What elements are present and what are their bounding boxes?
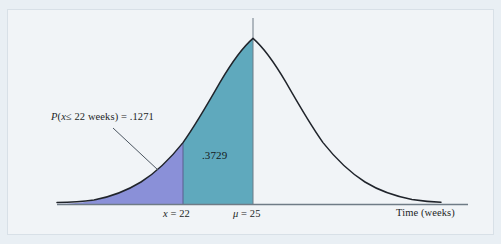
figure-container: P(x≤ 22 weeks) = .1271 .3729 x = 22 μ = … <box>0 0 501 244</box>
tick-mu-value: = 25 <box>238 208 260 219</box>
annotation-leader-line <box>113 128 158 170</box>
middle-region-probability-label: .3729 <box>202 149 227 161</box>
x-axis-title: Time (weeks) <box>396 207 455 218</box>
tick-label-x-22: x = 22 <box>163 208 190 219</box>
tick-label-mu-25: μ = 25 <box>233 208 261 219</box>
tick-x-value: = 22 <box>168 208 190 219</box>
lower-tail-probability-label: P(x≤ 22 weeks) = .1271 <box>51 111 154 122</box>
lower-tail-prob-rest: ≤ 22 weeks) = .1271 <box>66 111 154 122</box>
